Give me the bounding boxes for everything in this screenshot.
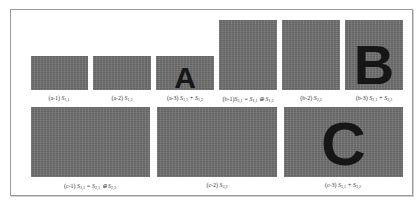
- panel-b-2: [282, 20, 340, 90]
- caption-a-1: (a-1) S1,1: [48, 95, 69, 102]
- caption-a-2: (a-2) S1,2: [111, 95, 132, 102]
- letter-a: A: [174, 63, 196, 90]
- caption-b-1: (b-1)S2,1 = S1,1 ⊕ S1,3: [222, 95, 273, 103]
- letter-b: B: [354, 37, 394, 90]
- caption-c-2: (c-2) S3,2: [206, 182, 227, 189]
- panel-c-3: C: [284, 107, 403, 177]
- caption-a-3: (a-3) S1,1 + S1,2: [167, 95, 203, 102]
- caption-b-2: (b-2) S2,2: [300, 95, 322, 102]
- panel-c-2: [157, 107, 277, 177]
- panel-c-1: [31, 107, 150, 177]
- caption-b-3: (b-3) S2,1 + S2,2: [356, 95, 393, 102]
- panel-b-1: [219, 20, 277, 90]
- panel-a-3: A: [156, 56, 214, 90]
- caption-c-1: (c-1) S3,1 = S2,1 ⊕ S2,3: [64, 182, 116, 190]
- caption-c-3: (c-3) S3,1 + S3,2: [325, 182, 361, 189]
- panel-a-2: [93, 56, 151, 90]
- letter-c: C: [321, 113, 366, 175]
- panel-b-3: B: [345, 20, 403, 90]
- panel-a-1: [31, 56, 88, 90]
